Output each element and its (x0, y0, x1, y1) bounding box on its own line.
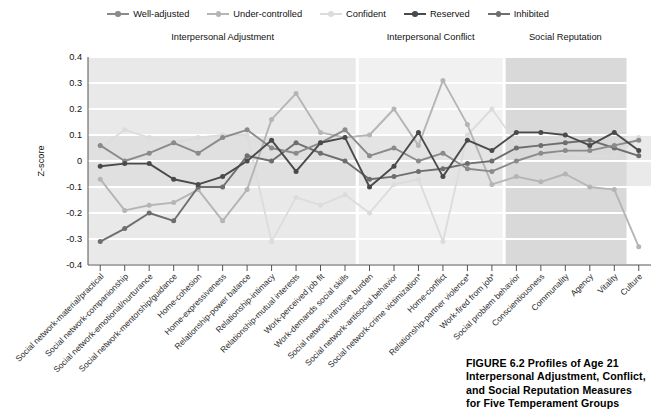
data-point (465, 166, 470, 171)
data-point (367, 133, 372, 138)
data-point (171, 200, 176, 205)
figure-page: Well-adjustedUnder-controlledConfidentRe… (0, 0, 656, 411)
data-point (440, 174, 445, 179)
data-point (220, 218, 225, 223)
data-point (489, 107, 494, 112)
data-point (440, 151, 445, 156)
data-point (587, 148, 592, 153)
data-point (147, 151, 152, 156)
data-point (563, 140, 568, 145)
y-tick-label: 0.2 (69, 104, 82, 114)
data-point (98, 143, 103, 148)
data-point (147, 211, 152, 216)
data-point (587, 153, 592, 158)
data-point (294, 91, 299, 96)
caption-line-3: for Five Temperament Groups (466, 397, 656, 410)
data-point (171, 177, 176, 182)
data-point (391, 164, 396, 169)
data-point (245, 133, 250, 138)
plot-area-wrapper: 0.40.30.20.10-0.1-0.2-0.3-0.4Z-scoreSoci… (0, 0, 656, 411)
data-point (245, 187, 250, 192)
data-point (269, 117, 274, 122)
data-point (171, 140, 176, 145)
data-point (343, 127, 348, 132)
data-point (122, 161, 127, 166)
data-point (465, 138, 470, 143)
data-point (563, 148, 568, 153)
caption-line-1: Interpersonal Adjustment, Conflict, (466, 370, 656, 383)
data-point (147, 135, 152, 140)
data-point (147, 161, 152, 166)
data-point (538, 130, 543, 135)
data-point (196, 135, 201, 140)
data-point (367, 153, 372, 158)
data-point (391, 174, 396, 179)
data-point (220, 174, 225, 179)
x-tick-label: Culture (618, 271, 644, 297)
data-point (636, 148, 641, 153)
data-point (98, 177, 103, 182)
y-tick-label: 0.3 (69, 78, 82, 88)
x-tick-label: Social network-material/practical (13, 271, 105, 363)
data-point (465, 122, 470, 127)
data-point (269, 138, 274, 143)
data-point (612, 130, 617, 135)
data-point (440, 239, 445, 244)
data-point (122, 226, 127, 231)
y-tick-label: -0.4 (66, 260, 82, 270)
data-point (98, 239, 103, 244)
data-point (196, 182, 201, 187)
data-point (98, 164, 103, 169)
y-axis-title: Z-score (36, 145, 46, 176)
data-point (489, 148, 494, 153)
data-point (514, 174, 519, 179)
data-point (318, 151, 323, 156)
data-point (587, 143, 592, 148)
figure-caption: FIGURE 6.2 Profiles of Age 21Interperson… (466, 357, 656, 411)
data-point (440, 166, 445, 171)
x-tick-label: Agency (568, 271, 595, 298)
data-point (612, 187, 617, 192)
data-point (440, 78, 445, 83)
data-point (343, 192, 348, 197)
data-point (538, 179, 543, 184)
data-point (294, 140, 299, 145)
data-point (367, 185, 372, 190)
data-point (636, 244, 641, 249)
data-point (636, 138, 641, 143)
data-point (489, 182, 494, 187)
data-point (269, 159, 274, 164)
data-point (563, 172, 568, 177)
y-tick-label: -0.1 (66, 182, 82, 192)
data-point (612, 153, 617, 158)
data-point (269, 146, 274, 151)
data-point (196, 151, 201, 156)
data-point (147, 203, 152, 208)
data-point (318, 130, 323, 135)
x-tick-label: Social network-emotional/nurturance (51, 271, 154, 374)
data-point (245, 127, 250, 132)
data-point (612, 143, 617, 148)
data-point (514, 130, 519, 135)
caption-line-2: and Social Reputation Measures (466, 384, 656, 397)
data-point (514, 159, 519, 164)
data-point (563, 133, 568, 138)
data-point (538, 151, 543, 156)
y-tick-label: 0.1 (69, 130, 82, 140)
data-point (294, 195, 299, 200)
data-point (367, 177, 372, 182)
data-point (122, 208, 127, 213)
data-point (416, 169, 421, 174)
y-tick-label: -0.2 (66, 208, 82, 218)
data-point (294, 151, 299, 156)
data-point (538, 143, 543, 148)
data-point (391, 107, 396, 112)
data-point (636, 153, 641, 158)
data-point (391, 182, 396, 187)
data-point (416, 143, 421, 148)
line-chart: 0.40.30.20.10-0.1-0.2-0.3-0.4Z-scoreSoci… (0, 0, 656, 411)
data-point (171, 218, 176, 223)
data-point (122, 127, 127, 132)
y-tick-label: 0 (77, 156, 82, 166)
data-point (343, 159, 348, 164)
